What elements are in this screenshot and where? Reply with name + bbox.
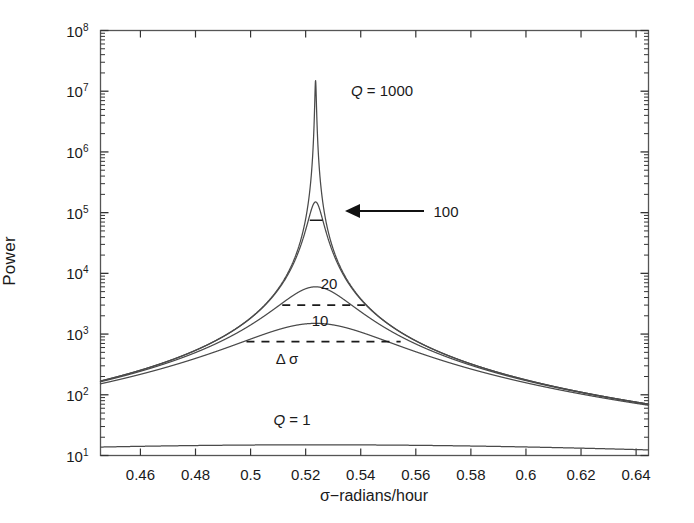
annotation-q-10: 10 [312, 312, 329, 329]
x-tick-label: 0.46 [126, 465, 155, 482]
y-tick-label: 105 [66, 204, 88, 222]
y-axis-label: Power [0, 236, 20, 286]
annotation-q-1: Q = 1 [273, 411, 310, 428]
annotation-q-100: 100 [433, 203, 458, 220]
y-tick-label: 101 [66, 447, 88, 465]
annotation-delta-sigma: Δ σ [276, 350, 299, 367]
annotation-q-1000: Q = 1000 [351, 82, 413, 99]
y-tick-label: 108 [66, 22, 88, 40]
x-tick-label: 0.6 [516, 465, 537, 482]
x-tick-label: 0.58 [456, 465, 485, 482]
y-tick-label: 102 [66, 386, 88, 404]
chart-canvas [0, 0, 694, 523]
x-tick-label: 0.54 [346, 465, 375, 482]
x-tick-label: 0.56 [401, 465, 430, 482]
x-tick-label: 0.52 [291, 465, 320, 482]
annotation-q-20: 20 [321, 275, 338, 292]
x-tick-label: 0.62 [566, 465, 595, 482]
y-tick-label: 104 [66, 264, 88, 282]
x-axis-label: σ−radians/hour [320, 487, 428, 505]
x-tick-label: 0.64 [621, 465, 650, 482]
figure-container: Power σ−radians/hour 0.460.480.50.520.54… [0, 0, 694, 523]
y-tick-label: 103 [66, 325, 88, 343]
x-tick-label: 0.5 [240, 465, 261, 482]
q100-annotation-arrow [345, 204, 424, 218]
x-tick-label: 0.48 [181, 465, 210, 482]
y-tick-label: 107 [66, 82, 88, 100]
y-tick-label: 106 [66, 143, 88, 161]
resonance-curves [101, 81, 649, 450]
